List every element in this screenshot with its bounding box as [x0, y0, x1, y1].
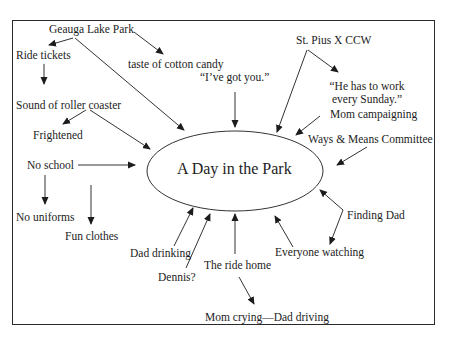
- arrow-everyone-watching-to-center: [275, 216, 293, 247]
- node-mom-campaigning: Mom campaigning: [330, 108, 417, 121]
- arrow-geauga-to-ride-tickets: [49, 38, 73, 45]
- node-he-has-to-work: “He has to work every Sunday.”: [328, 80, 406, 106]
- node-dad-drinking: Dad drinking: [130, 247, 191, 260]
- node-ive-got-you: “I’ve got you.”: [200, 71, 269, 84]
- arrow-geauga-to-center: [75, 38, 184, 130]
- node-st-pius: St. Pius X CCW: [296, 34, 371, 47]
- node-cotton-candy: taste of cotton candy: [128, 58, 223, 71]
- arrow-st-pius-to-work: [308, 50, 338, 72]
- node-no-uniforms: No uniforms: [16, 211, 74, 224]
- node-he-has-to-work-line1: “He has to work: [328, 80, 406, 93]
- arrow-dad-drinking-to-center: [174, 208, 193, 246]
- arrow-sound-to-frightened: [63, 110, 86, 124]
- node-frightened: Frightened: [33, 129, 83, 142]
- node-everyone-watching: Everyone watching: [275, 246, 364, 259]
- node-ride-home: The ride home: [204, 259, 271, 272]
- arrow-sound-to-center: [90, 110, 150, 149]
- node-mom-crying: Mom crying—Dad driving: [205, 311, 329, 324]
- node-he-has-to-work-line2: every Sunday.”: [328, 93, 406, 106]
- node-sound-of-roller-coaster: Sound of roller coaster: [16, 99, 121, 112]
- center-topic: A Day in the Park: [177, 160, 292, 178]
- node-dennis: Dennis?: [158, 271, 196, 284]
- node-geauga-lake-park: Geauga Lake Park: [49, 23, 134, 36]
- node-ride-tickets: Ride tickets: [16, 49, 71, 62]
- node-fun-clothes: Fun clothes: [65, 230, 118, 243]
- arrow-geauga-to-cotton-candy: [134, 32, 163, 54]
- arrow-ride-home-to-mom-crying: [239, 277, 254, 304]
- arrow-st-pius-to-center: [277, 50, 307, 132]
- concept-map: A Day in the Park Geauga Lake Park Ride …: [0, 0, 454, 343]
- node-no-school: No school: [27, 159, 74, 172]
- arrow-finding-dad-to-center: [320, 190, 343, 210]
- arrow-ways-means-to-center: [337, 147, 367, 165]
- node-finding-dad: Finding Dad: [347, 209, 405, 222]
- node-ways-means: Ways & Means Committee: [308, 133, 433, 146]
- arrow-finding-dad-to-everyone: [330, 210, 343, 244]
